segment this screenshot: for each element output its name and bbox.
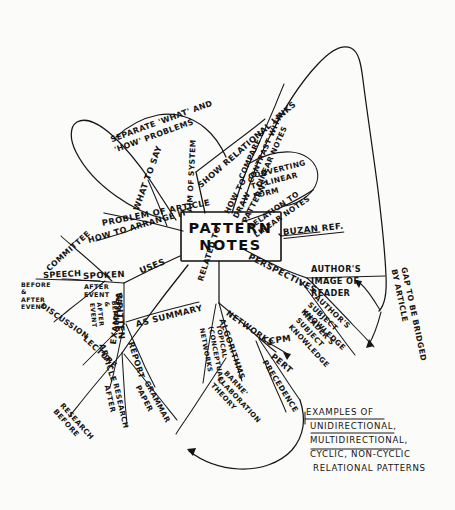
- caption-heading: EXAMPLES OF: [306, 406, 455, 420]
- caption-line-4: RELATIONAL PATTERNS: [313, 462, 455, 476]
- caption-line-2: MULTIDIRECTIONAL,: [310, 434, 455, 448]
- mind-map-canvas: PATTERN NOTES PROBLEM OF ARTICLE SEPARAT…: [0, 0, 455, 510]
- caption-line-1: UNIDIRECTIONAL,: [310, 420, 455, 434]
- label-authors-image-of-reader[interactable]: AUTHOR'S IMAGE OF READER: [311, 264, 391, 300]
- label-speech-before-after-event[interactable]: BEFORE & AFTER EVENT: [21, 281, 51, 311]
- label-spoken-after-event[interactable]: AFTER EVENT: [84, 284, 110, 300]
- label-speech[interactable]: SPEECH: [43, 269, 82, 280]
- caption-line-3: CYCLIC, NON-CYCLIC: [310, 448, 455, 462]
- caption-block: EXAMPLES OF UNIDIRECTIONAL, MULTIDIRECTI…: [306, 406, 455, 476]
